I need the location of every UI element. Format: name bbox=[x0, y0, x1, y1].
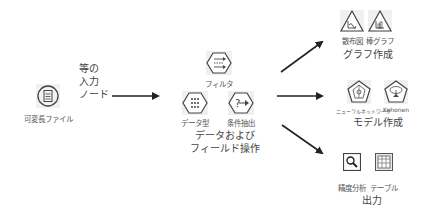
select-label: 条件抽出 bbox=[216, 117, 266, 128]
table-node[interactable] bbox=[375, 153, 393, 171]
select-node[interactable]: ? bbox=[228, 91, 254, 115]
neural-net-icon bbox=[347, 80, 371, 104]
histogram-label: 棒グラフ bbox=[360, 35, 400, 46]
table-label: テーブル bbox=[364, 182, 404, 193]
select-icon: ? bbox=[228, 91, 254, 115]
arrow-to-graphs bbox=[281, 42, 322, 72]
graphs-group-label: グラフ作成 bbox=[336, 48, 400, 61]
table-icon bbox=[375, 153, 393, 171]
plot-icon bbox=[340, 10, 364, 32]
variable-file-label: 可変長ファイル bbox=[18, 113, 78, 124]
arrow-to-output bbox=[282, 125, 322, 153]
variable-file-icon bbox=[36, 84, 60, 108]
neural-net-label: ニューラルネットワーク bbox=[336, 107, 382, 114]
neural-net-node[interactable] bbox=[347, 80, 371, 104]
plot-node[interactable] bbox=[340, 10, 364, 32]
analysis-icon bbox=[343, 153, 361, 171]
type-node[interactable] bbox=[182, 91, 208, 115]
kohonen-node[interactable] bbox=[384, 80, 408, 104]
histogram-icon bbox=[368, 10, 392, 32]
analysis-node[interactable] bbox=[343, 153, 361, 171]
type-icon bbox=[182, 91, 208, 115]
filter-icon bbox=[206, 51, 232, 75]
filter-node[interactable] bbox=[206, 51, 232, 75]
variable-file-node[interactable] bbox=[36, 84, 60, 108]
output-group-label: 出力 bbox=[352, 194, 392, 207]
kohonen-icon bbox=[384, 80, 408, 104]
histogram-node[interactable] bbox=[368, 10, 392, 32]
field-ops-group-label: データおよび フィールド操作 bbox=[180, 129, 270, 155]
filter-label: フィルタ bbox=[194, 78, 244, 89]
input-group-label: 等の 入力 ノード bbox=[79, 62, 109, 101]
type-label: データ型 bbox=[170, 117, 220, 128]
kohonen-label: Kohonen bbox=[378, 106, 414, 113]
modeling-group-label: モデル作成 bbox=[344, 116, 412, 129]
